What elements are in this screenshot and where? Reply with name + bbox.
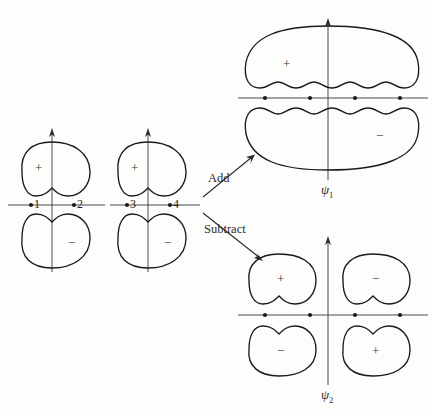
ethylene-b-upper-sign: + [131, 161, 138, 174]
psi1-lower-sign: − [376, 129, 383, 142]
psi1-subscript: 1 [329, 190, 333, 200]
psi2-atom-dot-3 [353, 313, 357, 317]
psi1-vertical-axis [325, 18, 331, 180]
psi1-atom-dot-2 [308, 96, 312, 100]
ethylene-b-atom-dot-4 [168, 203, 172, 207]
ethylene-a-upper-lobe [22, 142, 90, 196]
ethylene-a-lower-sign: − [68, 236, 75, 249]
psi1-atom-dot-4 [398, 96, 402, 100]
psi1-atom-dot-1 [263, 96, 267, 100]
ethylene-fragment-a [8, 128, 105, 272]
psi2-subscript: 2 [329, 395, 333, 405]
add-label: Add [208, 172, 230, 185]
subtract-arrow [203, 213, 263, 261]
psi2-atom-dot-2 [308, 313, 312, 317]
ethylene-a-atom-label-1: 1 [34, 198, 40, 210]
psi1-upper-sign: + [283, 57, 290, 70]
mo-diagram-figure: + − 1 2 + − 3 4 Add Subtract + − ψ1 + − … [0, 0, 432, 410]
psi2-atom-dot-4 [398, 313, 402, 317]
ethylene-b-vertical-axis [145, 128, 151, 272]
psi1-axis-label: ψ1 [321, 183, 333, 199]
ethylene-a-vertical-axis [49, 128, 55, 272]
psi2-vertical-axis [325, 236, 331, 385]
ethylene-b-lower-sign: − [164, 236, 171, 249]
psi1-lower-lobe [245, 108, 418, 170]
psi2-sign-top-left: + [277, 272, 284, 285]
ethylene-fragment-b [110, 128, 200, 272]
psi2-sign-top-right: − [372, 272, 379, 285]
ethylene-b-upper-lobe [118, 142, 186, 196]
ethylene-a-atom-dot-2 [72, 203, 76, 207]
psi2-atom-dot-1 [263, 313, 267, 317]
psi1-symbol: ψ [321, 182, 329, 197]
psi2-symbol: ψ [321, 387, 329, 402]
psi1-atom-dot-3 [353, 96, 357, 100]
subtract-label: Subtract [204, 223, 246, 236]
psi1-orbital-diagram [238, 18, 428, 180]
psi1-upper-lobe [245, 26, 418, 88]
psi2-sign-bottom-right: + [372, 344, 379, 357]
ethylene-b-atom-dot-3 [125, 203, 129, 207]
psi2-sign-bottom-left: − [277, 344, 284, 357]
ethylene-a-atom-dot-1 [29, 203, 33, 207]
psi2-axis-label: ψ2 [321, 388, 333, 404]
psi2-orbital-diagram [238, 236, 428, 385]
ethylene-a-atom-label-2: 2 [77, 198, 83, 210]
ethylene-b-atom-label-4: 4 [173, 198, 179, 210]
ethylene-b-lower-lobe [118, 214, 186, 268]
ethylene-a-upper-sign: + [35, 161, 42, 174]
ethylene-b-atom-label-3: 3 [130, 198, 136, 210]
ethylene-a-lower-lobe [22, 214, 90, 268]
mo-diagram-svg [0, 0, 432, 410]
